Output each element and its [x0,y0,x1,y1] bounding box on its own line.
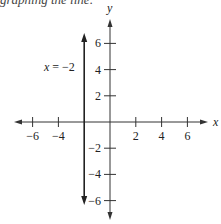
x-tick-label: 6 [184,129,190,143]
y-tick-label: 4 [95,63,101,77]
y-tick-label: 2 [95,89,101,103]
x-tick-label: 4 [159,129,165,143]
line-down-arrow-icon [81,196,87,205]
axes [14,19,208,220]
x-tick-label: −4 [52,129,65,143]
x-tick-label: −6 [26,129,39,143]
labels: xy−6−4246642−2−4−6x = −2 [26,1,219,208]
series [81,33,87,205]
y-tick-label: −6 [88,194,101,208]
y-axis-label: y [106,1,113,15]
coordinate-plane: xy−6−4246642−2−4−6x = −2 [0,0,221,224]
x-axis-right-arrow-icon [200,120,208,125]
x-axis-left-arrow-icon [14,120,22,125]
line-up-arrow-icon [81,33,87,42]
x-axis-label: x [212,115,219,129]
y-tick-label: −2 [88,141,101,155]
line-equation-annotation: x = −2 [43,60,75,74]
y-tick-label: −4 [88,167,101,181]
y-tick-label: 6 [95,36,101,50]
y-axis-up-arrow-icon [108,19,113,27]
y-axis-down-arrow-icon [108,212,113,220]
x-tick-label: 2 [133,129,139,143]
